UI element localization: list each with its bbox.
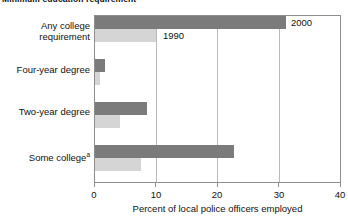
series-label-2000: 2000 [291, 16, 312, 29]
bar-1990-two-year [95, 115, 120, 128]
bar-2000-four-year [95, 59, 105, 72]
category-label-text: Two-year degree [19, 106, 90, 117]
category-label: Two-year degree [0, 106, 90, 117]
x-tick-label: 30 [274, 189, 285, 200]
chart-title: Minimum education requirement [2, 0, 136, 4]
category-label-line1: Any collegerequirement [39, 20, 90, 42]
x-tick-mark [217, 183, 218, 187]
category-label: Any collegerequirement [0, 20, 90, 42]
bar-2000-two-year [95, 102, 147, 115]
x-axis-title: Percent of local police officers employe… [94, 203, 341, 214]
bar-1990-four-year [95, 72, 100, 85]
category-label: Some collegea [0, 149, 90, 163]
x-tick-label: 0 [91, 189, 96, 200]
chart-figure: Minimum education requirement Any colleg… [0, 0, 348, 219]
x-tick-label: 40 [335, 189, 346, 200]
category-axis-labels: Any collegerequirement Four-year degree … [0, 15, 90, 183]
x-tick-mark [155, 183, 156, 187]
x-tick-label: 10 [151, 189, 162, 200]
category-label-text: Four-year degree [17, 64, 90, 75]
bars-layer: 2000 1990 [95, 16, 340, 182]
x-tick-label: 20 [212, 189, 223, 200]
category-label: Four-year degree [0, 64, 90, 75]
category-label-text: Some college [29, 152, 87, 163]
bar-1990-any-college [95, 29, 156, 42]
series-label-1990: 1990 [163, 29, 184, 42]
category-footnote-marker: a [86, 151, 90, 158]
bar-2000-any-college [95, 16, 286, 29]
x-tick-mark [94, 183, 95, 187]
bar-2000-some-college [95, 145, 234, 158]
x-tick-mark [340, 183, 341, 187]
bar-1990-some-college [95, 158, 141, 171]
x-tick-mark [278, 183, 279, 187]
